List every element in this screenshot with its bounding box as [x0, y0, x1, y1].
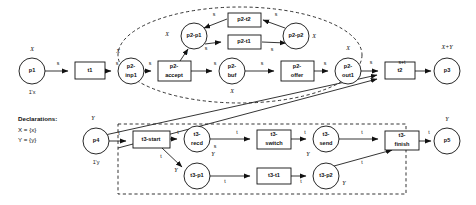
arc-label-b3: t: [160, 153, 162, 159]
type-label-t3-recd: Y: [211, 151, 215, 157]
arc-t3p2-t3finish: [334, 150, 392, 166]
label-p2-offer-line1: p2-: [293, 63, 302, 69]
label-t3-t1: t3-t1: [268, 172, 280, 178]
label-t3-send-line1: t3-: [323, 131, 330, 137]
arc-label-b8: t: [300, 178, 302, 184]
type-label-t3-p1: Y: [174, 167, 178, 173]
arc-p4-t2: [105, 75, 377, 135]
label-p2-accept-line1: p2-: [170, 63, 179, 69]
arc-label-a9: s: [271, 46, 274, 52]
place-p2-out1[interactable]: [335, 58, 361, 84]
arc-p2p1-p2t1: [205, 42, 221, 44]
arc-label-b9: t: [361, 129, 363, 135]
label-p2-offer-line2: offer: [291, 72, 304, 78]
arc-label-b4: s: [214, 143, 217, 149]
arc-label-a8: s: [275, 11, 278, 17]
arc-label-a7: s: [205, 45, 208, 51]
label-t3-start: t3-start: [142, 136, 161, 142]
arc-label-a11: s: [324, 60, 327, 66]
place-t3-recd[interactable]: [184, 126, 210, 152]
label-t3-recd-line1: t3-: [194, 131, 201, 137]
label-p2-p1: p2-p1: [187, 32, 202, 38]
type-label-p3: X+Y: [440, 44, 453, 50]
type-label-p2-p2: X: [311, 33, 316, 39]
label-p2-inp1-line2: inp1: [125, 72, 137, 78]
arc-label-b5: t: [236, 129, 238, 135]
label-p2-t1: p2-t1: [237, 38, 250, 44]
label-p2-buf-line2: buf: [228, 72, 237, 78]
marking-p4: 1'y: [93, 159, 100, 165]
label-t3-switch-line2: switch: [265, 140, 283, 146]
marking-p1: 1'x: [29, 89, 36, 95]
label-t1: t1: [88, 67, 93, 73]
arc-label-b7: t: [304, 129, 306, 135]
petri-net-diagram: p1 p2- inp1 p2-p1 p2- buf p2-p2 p2- out1…: [0, 0, 476, 205]
label-p2-buf-line1: p2-: [228, 63, 237, 69]
type-label-t3-p2: Y: [342, 180, 346, 186]
arc-label-a3: s: [149, 60, 152, 66]
arc-label-a1: s: [57, 60, 60, 66]
label-p2-inp1-line1: p2-: [127, 63, 136, 69]
arc-label-a6: s: [213, 11, 216, 17]
arc-label-a13: s+t: [398, 59, 406, 65]
label-p2-t2: p2-t2: [237, 16, 250, 22]
label-t3-p1: t3-p1: [190, 172, 203, 178]
label-t3-finish-line1: t3-: [399, 132, 406, 138]
arc-p2p2-p2t2: [263, 20, 285, 28]
arc-label-a5: s: [214, 60, 217, 66]
diagram-canvas: p1 p2- inp1 p2-p1 p2- buf p2-p2 p2- out1…: [0, 0, 476, 205]
arc-label-a2: s: [116, 60, 119, 66]
label-p2-out1-line1: p2-: [344, 63, 353, 69]
label-p2-out1-line2: out1: [342, 72, 354, 78]
declarations-heading: Declarations:: [18, 115, 57, 122]
type-label-t3-send: Y: [306, 151, 310, 157]
label-t3-finish-line2: finish: [395, 141, 410, 147]
type-label-p2-buf: X: [229, 88, 234, 94]
label-t3-recd-line2: recd: [191, 140, 203, 146]
label-p5: p5: [444, 137, 451, 143]
label-t3-p2: t3-p2: [319, 172, 332, 178]
arc-label-a4: s: [185, 49, 188, 55]
label-p3: p3: [444, 67, 451, 73]
label-p1: p1: [29, 67, 36, 73]
place-p2-buf[interactable]: [219, 58, 245, 84]
type-label-p5: Y: [445, 116, 449, 122]
label-p2-p2: p2-p2: [289, 32, 304, 38]
place-p2-inp1[interactable]: [118, 58, 144, 84]
type-label-p2-out1: X: [345, 45, 350, 51]
label-t3-send-line2: send: [319, 140, 333, 146]
arc-label-a10: s: [261, 60, 264, 66]
arc-label-b2: t: [177, 129, 179, 135]
arc-label-b10: t: [361, 159, 363, 165]
arc-label-a12: s: [370, 59, 373, 65]
label-t3-switch-line1: t3-: [271, 131, 278, 137]
arc-t3start-t3p1: [162, 148, 182, 167]
arc-label-b6: t: [224, 178, 226, 184]
label-p4: p4: [93, 137, 100, 143]
declaration-line-x: X = {x}: [18, 126, 36, 133]
place-t3-send[interactable]: [313, 126, 339, 152]
label-p2-accept-line2: accept: [165, 72, 183, 78]
type-label-p2-inp1: X: [115, 48, 120, 54]
type-label-p2-p1: X: [164, 31, 169, 37]
type-label-p4: Y: [91, 115, 95, 121]
declaration-line-y: Y = {y}: [18, 136, 36, 143]
arc-label-b11: t: [428, 129, 430, 135]
arc-p2t1-p2p2: [262, 42, 286, 43]
type-label-p1: X: [29, 46, 34, 52]
label-t2: t2: [398, 67, 403, 73]
arc-p2t2-p2p1: [204, 19, 227, 28]
